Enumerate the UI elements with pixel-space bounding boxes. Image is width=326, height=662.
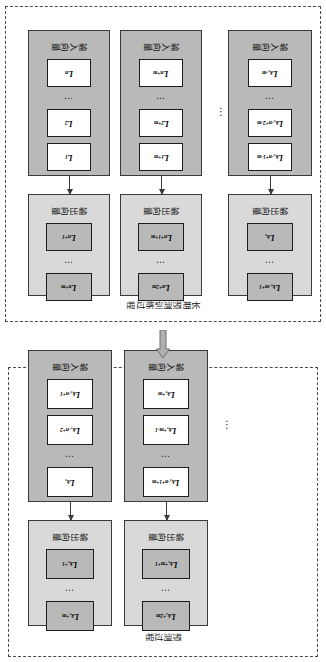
output-vector-label: 输出向量 <box>51 204 87 216</box>
cell-ellipsis: ⋯ <box>265 257 275 267</box>
vector-cell: Ln+1+m <box>138 223 184 251</box>
input-vector-label: 输入向量 <box>143 40 179 52</box>
prediction-row-2-output-group: 输出向量 Lk₀+m+1 ⋯ Lk₀+2m <box>124 520 208 626</box>
vector-cell: Lk₀+m-1 <box>143 415 189 445</box>
vector-cell-label: Ln+m <box>61 283 76 291</box>
vector-cell-label: Ln+1 <box>62 233 76 241</box>
vector-cell-label: Ln+m <box>153 69 168 77</box>
prediction-row-2-input-group: 输入向量 Lk₀+m Lk₀+m-1 ⋯ Lk₀-n+1+m <box>124 350 208 502</box>
vector-cell: Lk₀+m <box>143 379 189 409</box>
training-row-1-output-group: 输出向量 Ln+1 ⋯ Ln+m <box>28 194 110 296</box>
training-row-2-output-group: 输出向量 Ln+1+m ⋯ Ln+2m <box>120 194 202 296</box>
training-column-ellipsis: ⋮ <box>216 106 228 117</box>
vector-cell-label: Lk₀-n+1 <box>60 390 80 398</box>
vector-cell-label: Lk₀-n+1-m <box>257 153 283 161</box>
vector-cell: L1 <box>47 143 91 171</box>
vector-cell: L2+m <box>139 109 183 137</box>
prediction-column-ellipsis: ⋮ <box>222 419 234 430</box>
vector-cell-label: Ln <box>65 69 73 77</box>
vector-cell-label: Lk₀-n+1+m <box>152 478 179 486</box>
vector-cell: Lk₀-n+1-m <box>248 143 292 171</box>
prediction-row-2-arrow <box>166 502 167 520</box>
cell-ellipsis: ⋯ <box>64 93 74 103</box>
vector-cell: Lk₀-n+2 <box>47 415 93 445</box>
cell-ellipsis: ⋯ <box>156 93 166 103</box>
cell-ellipsis: ⋯ <box>161 451 171 461</box>
vector-cell-label: Lk₀ <box>265 233 274 241</box>
vector-cell-label: Lk₀-m+1 <box>259 283 280 291</box>
cell-ellipsis: ⋯ <box>65 585 75 595</box>
vector-cell: Lk₀-n+1+m <box>143 467 189 497</box>
training-row-3-input-group: 输入向量 Lk₀-m ⋯ Lk₀-n+2-m Lk₀-n+1-m <box>228 30 312 176</box>
training-row-1-arrow <box>69 176 70 194</box>
vector-cell: L2 <box>47 109 91 137</box>
vector-cell: Ln+2m <box>138 273 184 301</box>
vector-cell-label: Lk₀+2m <box>156 612 175 620</box>
prediction-process-title: 预测过程 <box>145 630 182 642</box>
training-row-3-output-group: 输出向量 Lk₀ ⋯ Lk₀-m+1 <box>228 194 312 296</box>
vector-cell-label: L1+m <box>154 153 169 161</box>
vector-cell: Lk₀-m+1 <box>247 273 293 301</box>
training-row-3-arrow <box>270 176 271 194</box>
vector-cell-label: Lk₀-n+2-m <box>257 119 283 127</box>
output-vector-label: 输出向量 <box>252 204 288 216</box>
vector-cell: Lk₀ <box>47 467 93 497</box>
cell-ellipsis: ⋯ <box>265 93 275 103</box>
vector-cell-label: Lk₀-n+2 <box>60 426 80 434</box>
cell-ellipsis: ⋯ <box>156 257 166 267</box>
prediction-row-1-input-group: 输入向量 Lk₀-n+1 Lk₀-n+2 ⋯ Lk₀ <box>28 350 112 502</box>
training-row-1-input-group: 输入向量 Ln ⋯ L2 L1 <box>28 30 110 176</box>
cell-ellipsis: ⋯ <box>64 257 74 267</box>
vector-cell-label: Lk₀+m-1 <box>155 426 176 434</box>
vector-cell: Ln+m <box>46 273 92 301</box>
output-vector-label: 输出向量 <box>143 204 179 216</box>
vector-cell: Lk₀+m+1 <box>142 549 190 579</box>
training-row-2-input-group: 输入向量 Ln+m ⋯ L2+m L1+m <box>120 30 202 176</box>
cell-ellipsis: ⋯ <box>161 585 171 595</box>
vector-cell-label: Lk₀+m <box>158 390 175 398</box>
input-vector-label: 输入向量 <box>252 40 288 52</box>
vector-cell-label: L2+m <box>154 119 169 127</box>
vector-cell: Lk₀+1 <box>46 549 94 579</box>
output-vector-label: 输出向量 <box>52 530 88 542</box>
vector-cell-label: Lk₀-m <box>262 69 277 77</box>
vector-cell: Lk₀-m <box>248 59 292 87</box>
vector-cell-label: L1 <box>65 153 73 161</box>
vector-cell-label: Lk₀+m+1 <box>155 560 178 568</box>
diagram-stage: 预测过程 输出向量 Lk₀+1 ⋯ Lk₀+m 输入向量 Lk₀-n+1 <box>0 0 326 662</box>
vector-cell-label: Lk₀ <box>65 478 74 486</box>
vector-cell-label: Lk₀+m <box>62 612 79 620</box>
vector-cell: Ln+1 <box>46 223 92 251</box>
input-vector-label: 输入向量 <box>148 360 184 372</box>
vector-cell: Lk₀+2m <box>142 601 190 631</box>
vector-cell-label: Ln+1+m <box>151 233 172 241</box>
flow-arrow-up-icon <box>155 330 171 358</box>
vector-cell: Ln <box>47 59 91 87</box>
vector-cell-label: Ln+2m <box>152 283 170 291</box>
vector-cell: Lk₀ <box>247 223 293 251</box>
vector-cell: Ln+m <box>139 59 183 87</box>
vector-cell: L1+m <box>139 143 183 171</box>
diagram-canvas: 预测过程 输出向量 Lk₀+1 ⋯ Lk₀+m 输入向量 Lk₀-n+1 <box>0 0 326 662</box>
input-vector-label: 输入向量 <box>52 360 88 372</box>
vector-cell-label: L2 <box>65 119 73 127</box>
input-vector-label: 输入向量 <box>51 40 87 52</box>
prediction-row-1-output-group: 输出向量 Lk₀+1 ⋯ Lk₀+m <box>28 520 112 626</box>
cell-ellipsis: ⋯ <box>65 451 75 461</box>
vector-cell: Lk₀+m <box>46 601 94 631</box>
prediction-row-1-arrow <box>70 502 71 520</box>
vector-cell: Lk₀-n+1 <box>47 379 93 409</box>
vector-cell-label: Lk₀+1 <box>62 560 77 568</box>
output-vector-label: 输出向量 <box>148 530 184 542</box>
training-row-2-arrow <box>161 176 162 194</box>
vector-cell: Lk₀-n+2-m <box>248 109 292 137</box>
